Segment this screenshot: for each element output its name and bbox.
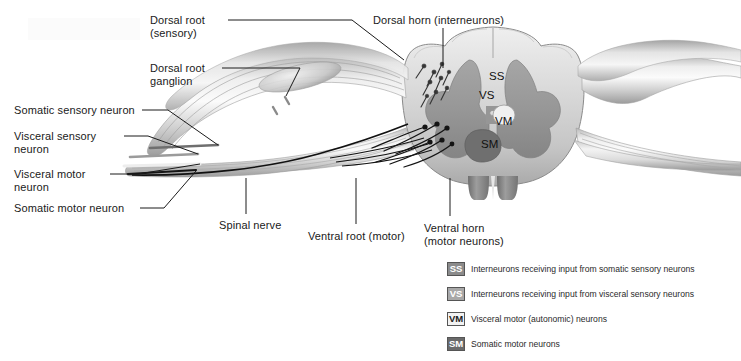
ventral-column-right xyxy=(497,176,518,200)
label-somatic-sensory-neuron: Somatic sensory neuron xyxy=(14,104,135,117)
marker-sm: SM xyxy=(481,138,499,150)
label-ventral-horn: Ventral horn (motor neurons) xyxy=(424,222,504,248)
label-somatic-motor-neuron: Somatic motor neuron xyxy=(14,202,124,215)
label-dorsal-root-ganglion: Dorsal root ganglion xyxy=(150,62,205,88)
label-ventral-root: Ventral root (motor) xyxy=(308,230,405,243)
label-visceral-motor-neuron: Visceral motor neuron xyxy=(14,168,86,194)
marker-vm: VM xyxy=(495,115,513,127)
legend-key-sm: SM xyxy=(447,337,465,351)
right-nerve-roots xyxy=(574,40,741,176)
legend-row: SS Interneurons receiving input from som… xyxy=(447,258,737,279)
legend-text-ss: Interneurons receiving input from somati… xyxy=(471,264,695,274)
ganglion-tick-marks xyxy=(273,97,289,114)
legend-text-vm: Visceral motor (autonomic) neurons xyxy=(471,314,607,324)
legend-text-sm: Somatic motor neurons xyxy=(471,339,560,349)
ventral-column-left xyxy=(468,176,489,200)
legend: SS Interneurons receiving input from som… xyxy=(447,258,737,358)
marker-ss: SS xyxy=(489,70,505,82)
visceral-sensory-fiber xyxy=(130,154,198,157)
ventral-median-fissure xyxy=(491,176,495,200)
spinal-cord-body xyxy=(402,27,584,200)
marker-vs: VS xyxy=(479,89,495,101)
legend-row: SM Somatic motor neurons xyxy=(447,333,737,354)
legend-text-vs: Interneurons receiving input from viscer… xyxy=(471,289,694,299)
legend-row: VM Visceral motor (autonomic) neurons xyxy=(447,308,737,329)
label-visceral-sensory-neuron: Visceral sensory neuron xyxy=(14,130,96,156)
legend-row: VS Interneurons receiving input from vis… xyxy=(447,283,737,304)
figure-canvas: Dorsal root (sensory) Dorsal root gangli… xyxy=(0,0,741,361)
legend-key-vs: VS xyxy=(447,287,465,301)
legend-key-ss: SS xyxy=(447,262,465,276)
label-dorsal-root: Dorsal root (sensory) xyxy=(150,14,205,40)
label-dorsal-horn: Dorsal horn (interneurons) xyxy=(373,14,504,27)
legend-key-vm: VM xyxy=(447,312,465,326)
label-spinal-nerve: Spinal nerve xyxy=(219,219,281,232)
